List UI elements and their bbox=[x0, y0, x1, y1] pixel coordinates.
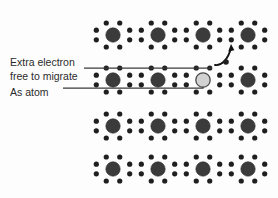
valence-electron-dot bbox=[229, 82, 234, 87]
host-silicon-atom bbox=[151, 73, 165, 87]
as-dopant-atom bbox=[196, 73, 210, 87]
valence-electron-dot bbox=[139, 171, 144, 176]
valence-electron-dot bbox=[94, 162, 99, 167]
valence-electron-dot bbox=[172, 37, 177, 42]
free-electron-layer bbox=[223, 59, 229, 65]
valence-electron-dot bbox=[194, 154, 199, 159]
valence-electron-dot bbox=[94, 82, 99, 87]
valence-electron-dot bbox=[104, 44, 109, 49]
valence-electron-dot bbox=[252, 178, 257, 183]
valence-electron-dot bbox=[149, 135, 154, 140]
valence-electron-dot bbox=[207, 154, 212, 159]
valence-electron-dot bbox=[239, 178, 244, 183]
valence-electron-dot bbox=[217, 162, 222, 167]
valence-electron-dot bbox=[94, 37, 99, 42]
valence-electron-dot bbox=[139, 28, 144, 33]
valence-electron-dot bbox=[229, 171, 234, 176]
valence-electron-dot bbox=[162, 178, 167, 183]
valence-electron-dot bbox=[149, 111, 154, 116]
valence-electron-dot bbox=[139, 73, 144, 78]
valence-electron-dot bbox=[104, 89, 109, 94]
valence-electron-dot bbox=[104, 154, 109, 159]
extra-electron-label-line1: Extra electron bbox=[10, 56, 75, 68]
valence-electron-dot bbox=[252, 154, 257, 159]
host-silicon-atom bbox=[241, 73, 255, 87]
valence-electron-dot bbox=[104, 20, 109, 25]
valence-electron-dot bbox=[239, 20, 244, 25]
valence-electron-dot bbox=[94, 128, 99, 133]
valence-electron-dot bbox=[117, 89, 122, 94]
valence-electron-dot bbox=[149, 178, 154, 183]
valence-electron-dot bbox=[172, 28, 177, 33]
as-atom-label-line1: As atom bbox=[10, 86, 49, 98]
valence-electron-dot bbox=[162, 135, 167, 140]
valence-electron-dot bbox=[127, 171, 132, 176]
host-silicon-atom bbox=[106, 28, 120, 42]
host-silicon-atom bbox=[196, 28, 210, 42]
host-silicon-atom bbox=[151, 28, 165, 42]
valence-electron-dot bbox=[162, 20, 167, 25]
valence-electron-dot bbox=[194, 178, 199, 183]
valence-electron-dot bbox=[127, 37, 132, 42]
host-silicon-atom bbox=[106, 162, 120, 176]
valence-electron-dot bbox=[127, 82, 132, 87]
valence-electron-dot bbox=[94, 171, 99, 176]
valence-electron-dot bbox=[229, 37, 234, 42]
valence-electron-dot bbox=[262, 37, 267, 42]
valence-electron-dot bbox=[117, 20, 122, 25]
valence-electron-dot bbox=[117, 135, 122, 140]
valence-electron-dot bbox=[162, 154, 167, 159]
valence-electron-dot bbox=[239, 89, 244, 94]
valence-electron-dot bbox=[139, 82, 144, 87]
valence-electron-dot bbox=[172, 73, 177, 78]
valence-electron-dot bbox=[252, 111, 257, 116]
valence-electron-dot bbox=[239, 44, 244, 49]
valence-electron-dot bbox=[252, 135, 257, 140]
valence-electron-dot bbox=[207, 20, 212, 25]
valence-electron-dot bbox=[184, 162, 189, 167]
valence-electron-dot bbox=[194, 111, 199, 116]
valence-electron-dot bbox=[149, 44, 154, 49]
valence-electron-dot bbox=[229, 162, 234, 167]
extra-electron-label-line2: free to migrate bbox=[10, 70, 78, 82]
valence-electron-dot bbox=[229, 73, 234, 78]
valence-electron-dot bbox=[207, 178, 212, 183]
valence-electron-dot bbox=[104, 178, 109, 183]
valence-electron-dot bbox=[127, 73, 132, 78]
host-silicon-atom bbox=[241, 162, 255, 176]
valence-electron-dot bbox=[252, 65, 257, 70]
valence-electron-dot bbox=[207, 89, 212, 94]
valence-electron-dot bbox=[262, 28, 267, 33]
valence-electron-dot bbox=[217, 28, 222, 33]
valence-electron-dot bbox=[217, 37, 222, 42]
valence-electron-dot bbox=[162, 44, 167, 49]
valence-electron-dot bbox=[194, 89, 199, 94]
valence-electron-dot bbox=[252, 44, 257, 49]
host-silicon-atom bbox=[196, 119, 210, 133]
valence-electron-dot bbox=[229, 28, 234, 33]
valence-electron-dot bbox=[149, 154, 154, 159]
valence-electron-dot bbox=[194, 20, 199, 25]
valence-electron-dot bbox=[172, 128, 177, 133]
valence-electron-dot bbox=[217, 171, 222, 176]
valence-electron-dot bbox=[239, 135, 244, 140]
valence-electron-dot bbox=[262, 171, 267, 176]
free-electron-dot bbox=[223, 59, 229, 65]
valence-electron-dot bbox=[207, 44, 212, 49]
host-silicon-atom bbox=[241, 28, 255, 42]
valence-electron-dot bbox=[127, 128, 132, 133]
valence-electron-dot bbox=[262, 162, 267, 167]
valence-electron-dot bbox=[172, 82, 177, 87]
valence-electron-dot bbox=[184, 171, 189, 176]
valence-electron-dot bbox=[229, 119, 234, 124]
valence-electron-dot bbox=[184, 73, 189, 78]
host-silicon-atom bbox=[106, 119, 120, 133]
valence-electron-dot bbox=[239, 111, 244, 116]
valence-electron-dot bbox=[94, 119, 99, 124]
valence-electron-dot bbox=[139, 119, 144, 124]
host-silicon-atom bbox=[196, 162, 210, 176]
valence-electron-dot bbox=[94, 73, 99, 78]
valence-electron-dot bbox=[217, 82, 222, 87]
valence-electron-dot bbox=[104, 135, 109, 140]
valence-electron-dot bbox=[239, 65, 244, 70]
